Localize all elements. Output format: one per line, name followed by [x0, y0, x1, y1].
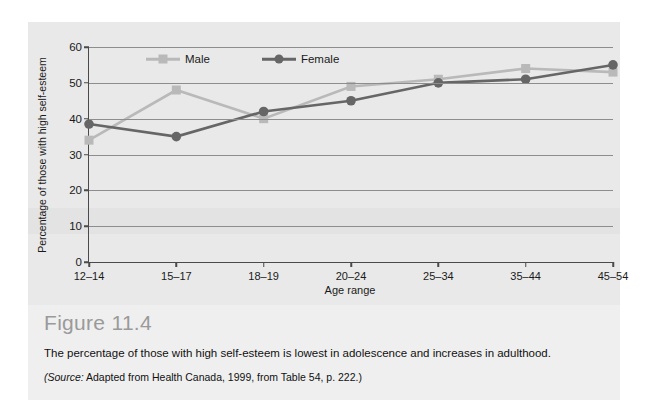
figure-caption: Figure 11.4 The percentage of those with… — [28, 305, 620, 400]
figure-source: (Source: Adapted from Health Canada, 199… — [44, 371, 362, 383]
legend-label-female: Female — [301, 53, 339, 65]
legend-label-male: Male — [185, 53, 210, 65]
data-point-female[interactable] — [346, 96, 356, 106]
chart-area: Percentage of those with high self-estee… — [28, 22, 620, 305]
legend-swatch-male — [146, 54, 180, 65]
x-tick-mark — [525, 262, 527, 267]
y-tick-mark — [84, 190, 89, 192]
y-tick-label: 40 — [69, 113, 82, 125]
gridline — [89, 83, 613, 84]
y-tick-mark — [84, 46, 89, 48]
gridline — [89, 226, 613, 227]
data-point-male[interactable] — [521, 64, 530, 73]
x-tick-mark — [176, 262, 178, 267]
y-tick-mark — [84, 118, 89, 120]
source-text: Adapted from Health Canada, 1999, from T… — [84, 371, 362, 383]
gridline — [89, 119, 613, 120]
legend-item-female[interactable]: Female — [262, 53, 339, 65]
y-axis-title-text: Percentage of those with high self-estee… — [36, 57, 48, 253]
x-tick-label: 15–17 — [161, 270, 192, 282]
y-tick-mark — [84, 154, 89, 156]
x-tick-label: 18–19 — [248, 270, 279, 282]
y-tick-label: 10 — [69, 220, 82, 232]
y-tick-label: 20 — [69, 184, 82, 196]
y-tick-label: 50 — [69, 77, 82, 89]
y-tick-label: 60 — [69, 41, 82, 53]
figure-description: The percentage of those with high self-e… — [44, 347, 551, 359]
gridline — [89, 155, 613, 156]
data-point-female[interactable] — [259, 107, 269, 117]
y-tick-label: 30 — [69, 149, 82, 161]
y-tick-mark — [84, 82, 89, 84]
y-tick-mark — [84, 225, 89, 227]
gridline — [89, 47, 613, 48]
source-prefix: (Source: — [44, 371, 84, 383]
data-point-female[interactable] — [172, 132, 182, 142]
x-axis-title: Age range — [88, 284, 612, 296]
chart-legend: Male Female — [146, 53, 339, 65]
x-tick-label: 35–44 — [510, 270, 541, 282]
data-point-female[interactable] — [608, 60, 618, 70]
y-axis-title: Percentage of those with high self-estee… — [34, 47, 50, 262]
legend-swatch-female — [262, 54, 296, 65]
plot-area: 010203040506012–1415–1718–1920–2425–3435… — [88, 47, 613, 263]
x-tick-mark — [612, 262, 614, 267]
figure-title: Figure 11.4 — [44, 311, 152, 335]
gridline — [89, 190, 613, 191]
x-tick-label: 20–24 — [336, 270, 367, 282]
x-tick-mark — [438, 262, 440, 267]
legend-item-male[interactable]: Male — [146, 53, 210, 65]
x-tick-mark — [350, 262, 352, 267]
data-point-male[interactable] — [85, 136, 94, 145]
x-tick-label: 25–34 — [423, 270, 454, 282]
x-tick-mark — [263, 262, 265, 267]
data-point-male[interactable] — [172, 86, 181, 95]
y-tick-label: 0 — [76, 256, 82, 268]
x-tick-mark — [88, 262, 90, 267]
figure-panel: Percentage of those with high self-estee… — [28, 22, 620, 400]
x-tick-label: 45–54 — [598, 270, 629, 282]
x-tick-label: 12–14 — [74, 270, 105, 282]
data-point-female[interactable] — [84, 119, 94, 129]
